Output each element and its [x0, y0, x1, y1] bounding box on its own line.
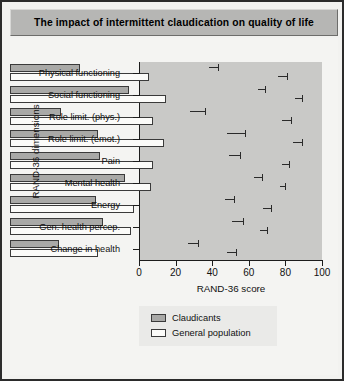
- y-axis-tick: [133, 161, 140, 162]
- chart-canvas: Physical functioningSocial functioningRo…: [10, 38, 338, 375]
- error-bar-cap-general: [302, 95, 303, 102]
- x-axis-tick: [249, 261, 250, 266]
- error-bar-cap-general: [236, 249, 237, 256]
- x-axis-tick-label: 60: [229, 267, 269, 278]
- y-axis-tick-label: Pain: [0, 156, 120, 166]
- y-axis-tick-label: Role limit. (phys.): [0, 112, 120, 122]
- legend-label-general-population: General population: [172, 328, 251, 338]
- x-axis-title: RAND-36 score: [139, 283, 323, 294]
- y-axis-tick-label: Energy: [0, 200, 120, 210]
- x-axis-tick: [139, 261, 140, 266]
- error-bar-general: [227, 252, 236, 253]
- y-axis-tick-label: Mental health: [0, 178, 120, 188]
- error-bar-claudicants: [209, 67, 218, 68]
- x-axis-tick: [212, 261, 213, 266]
- x-axis-tick-label: 80: [265, 267, 305, 278]
- error-bar-general: [260, 230, 267, 231]
- error-bar-general: [278, 76, 287, 77]
- y-axis-title: RAND-36 dimensions: [30, 72, 41, 232]
- chart-legend: Claudicants General population: [139, 306, 277, 346]
- legend-item-general-population: General population: [151, 326, 251, 340]
- error-bar-general: [282, 120, 291, 121]
- y-axis-tick: [133, 139, 140, 140]
- legend-label-claudicants: Claudicants: [172, 313, 221, 323]
- y-axis-tick-label: Role limit. (emot.): [0, 134, 120, 144]
- x-axis-line: [139, 260, 323, 261]
- error-bar-claudicants: [188, 243, 197, 244]
- error-bar-claudicants: [254, 177, 261, 178]
- chart-title-bar: The impact of intermittent claudication …: [10, 9, 338, 36]
- error-bar-cap-claudicants: [240, 152, 241, 159]
- error-bar-claudicants: [225, 199, 234, 200]
- error-bar-claudicants: [190, 111, 205, 112]
- y-axis-tick: [133, 117, 140, 118]
- error-bar-claudicants: [258, 89, 265, 90]
- error-bar-cap-claudicants: [243, 218, 244, 225]
- error-bar-general: [295, 98, 302, 99]
- y-axis-tick: [133, 227, 140, 228]
- y-axis-tick: [133, 205, 140, 206]
- error-bar-claudicants: [232, 221, 243, 222]
- y-axis-tick-label: Social functioning: [0, 90, 120, 100]
- error-bar-cap-general: [289, 161, 290, 168]
- x-axis-tick-label: 40: [192, 267, 232, 278]
- error-bar-general: [293, 142, 302, 143]
- error-bar-cap-claudicants: [262, 174, 263, 181]
- y-axis-tick: [133, 183, 140, 184]
- error-bar-cap-general: [291, 117, 292, 124]
- figure-container: The impact of intermittent claudication …: [0, 0, 344, 381]
- error-bar-cap-claudicants: [265, 86, 266, 93]
- error-bar-cap-general: [267, 227, 268, 234]
- error-bar-general: [282, 164, 289, 165]
- x-axis-tick: [176, 261, 177, 266]
- y-axis-tick: [133, 73, 140, 74]
- legend-item-claudicants: Claudicants: [151, 311, 221, 325]
- error-bar-general: [263, 208, 270, 209]
- y-axis-tick-label: Gen. health percep.: [0, 222, 120, 232]
- error-bar-cap-general: [287, 73, 288, 80]
- x-axis-tick: [322, 261, 323, 266]
- error-bar-cap-claudicants: [218, 64, 219, 71]
- error-bar-claudicants: [229, 155, 240, 156]
- x-axis-tick-label: 0: [119, 267, 159, 278]
- legend-swatch-general-population: [151, 329, 166, 337]
- error-bar-cap-claudicants: [205, 108, 206, 115]
- error-bar-cap-claudicants: [234, 196, 235, 203]
- y-axis-tick-label: Physical functioning: [0, 68, 120, 78]
- x-axis-tick-label: 100: [302, 267, 342, 278]
- y-axis-tick-label: Change in health: [0, 244, 120, 254]
- error-bar-cap-general: [285, 183, 286, 190]
- error-bar-cap-claudicants: [245, 130, 246, 137]
- legend-swatch-claudicants: [151, 314, 166, 322]
- page-title: The impact of intermittent claudication …: [34, 17, 314, 28]
- x-axis-tick: [285, 261, 286, 266]
- error-bar-claudicants: [227, 133, 245, 134]
- y-axis-tick: [133, 249, 140, 250]
- error-bar-cap-general: [271, 205, 272, 212]
- error-bar-cap-claudicants: [198, 240, 199, 247]
- x-axis-tick-label: 20: [156, 267, 196, 278]
- y-axis-tick: [133, 95, 140, 96]
- error-bar-cap-general: [302, 139, 303, 146]
